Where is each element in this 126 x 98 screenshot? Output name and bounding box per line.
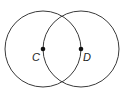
circles-diagram: C D [0, 0, 126, 98]
label-d: D [83, 51, 91, 63]
point-c [41, 47, 46, 52]
label-c: C [32, 51, 40, 63]
